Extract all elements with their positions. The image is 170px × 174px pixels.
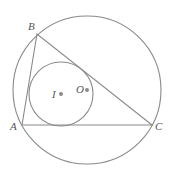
label-vertex-a: A [9, 120, 17, 132]
label-incenter-i: I [51, 88, 57, 100]
triangle-abc [22, 34, 152, 125]
geometry-diagram: B A C I O [0, 0, 170, 174]
label-circumcenter-o: O [76, 83, 84, 95]
circumcenter-point [85, 88, 89, 92]
label-vertex-b: B [28, 20, 35, 32]
incenter-point [59, 92, 63, 96]
label-vertex-c: C [155, 120, 163, 132]
